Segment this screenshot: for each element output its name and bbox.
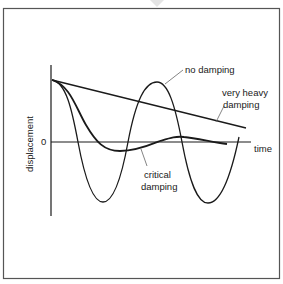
origin-label: 0 (41, 136, 46, 147)
label-no-damping: no damping (185, 64, 235, 75)
damping-diagram: 0 time displacement no damping very heav… (0, 0, 283, 284)
leader-no-damping (165, 70, 183, 84)
label-critical-line2: damping (141, 181, 177, 192)
x-axis-label: time (254, 143, 272, 154)
y-axis-label: displacement (24, 116, 35, 172)
label-very-heavy-line2: damping (223, 99, 259, 110)
leader-critical-damping (141, 149, 147, 166)
label-very-heavy-line1: very heavy (222, 87, 268, 98)
label-critical-line1: critical (144, 169, 171, 180)
